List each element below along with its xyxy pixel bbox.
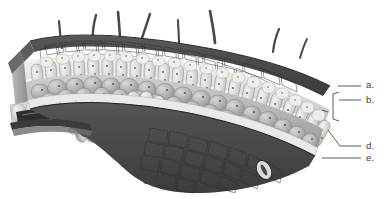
leader-b-bracket	[333, 92, 361, 121]
label-d: d.	[366, 141, 374, 151]
label-b: b.	[366, 95, 374, 105]
leaf-cross-section-figure: a. b. c. d. e.	[0, 0, 386, 199]
label-c: c.	[143, 176, 151, 186]
label-e: e.	[366, 153, 374, 163]
label-a: a.	[366, 80, 374, 90]
leader-d	[328, 130, 361, 146]
leaf-illustration	[0, 0, 386, 199]
